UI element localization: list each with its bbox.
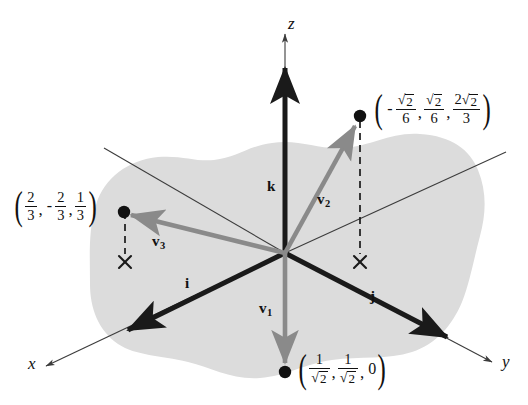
- fraction-x: 2 3: [25, 190, 36, 222]
- comma: ,: [360, 363, 364, 385]
- radical-icon: √2: [462, 93, 478, 108]
- vector-label-v3: v3: [152, 233, 165, 251]
- vector-label-v1: v1: [259, 300, 272, 318]
- comma: ,: [446, 103, 450, 125]
- basis-label-j: j: [370, 288, 375, 305]
- denominator: √2: [309, 369, 329, 386]
- basis-label-i: i: [185, 275, 189, 292]
- vector-label-v1-base: v: [259, 300, 267, 316]
- basis-label-k: k: [267, 178, 275, 195]
- numerator: 2: [55, 190, 66, 206]
- axis-label-y: y: [502, 352, 510, 372]
- axis-label-z: z: [288, 14, 295, 34]
- fraction-z: 1 3: [75, 190, 86, 222]
- vector-label-v2: v2: [317, 191, 330, 209]
- radicand: 2: [405, 94, 414, 108]
- numerator: √2: [424, 92, 444, 109]
- numerator: 1: [75, 190, 86, 206]
- denominator: 6: [400, 110, 411, 126]
- denominator: 3: [461, 110, 472, 126]
- radical-icon: √2: [340, 371, 356, 386]
- figure-canvas: z x y k i j v1 v2 v3 ( - √2 6 , √2 6: [0, 0, 528, 405]
- comma: ,: [418, 103, 422, 125]
- sign-minus: -: [47, 197, 52, 215]
- radicand: 2: [347, 371, 356, 385]
- fraction-y: 1 √2: [338, 352, 358, 385]
- endpoint-dot-v1: [279, 366, 291, 378]
- vector-label-v3-base: v: [152, 233, 160, 249]
- vector-label-v3-subscript: 3: [160, 240, 165, 251]
- numerator: 2: [25, 190, 36, 206]
- denominator: 3: [75, 207, 86, 223]
- numerator: 1: [314, 352, 325, 368]
- denominator: 3: [55, 207, 66, 223]
- vector-label-v1-subscript: 1: [267, 307, 272, 318]
- fraction-y: √2 6: [424, 92, 444, 125]
- denominator: √2: [338, 369, 358, 386]
- denominator: 3: [25, 207, 36, 223]
- endpoint-dot-v3: [118, 206, 130, 218]
- radical-sign: √: [462, 93, 470, 107]
- endpoint-dot-v2: [354, 110, 366, 122]
- fraction-y: 2 3: [55, 190, 66, 222]
- radical-sign: √: [311, 371, 319, 385]
- radical-icon: √2: [426, 93, 442, 108]
- radicand: 2: [319, 371, 328, 385]
- radical-sign: √: [340, 371, 348, 385]
- radical-icon: √2: [398, 93, 414, 108]
- vector-label-v2-subscript: 2: [325, 198, 330, 209]
- coefficient: 2: [455, 91, 462, 107]
- vector-label-v2-base: v: [317, 191, 325, 207]
- fraction-z: 2√2 3: [453, 92, 480, 125]
- radical-sign: √: [426, 93, 434, 107]
- axis-label-x: x: [28, 354, 36, 374]
- sign-minus: -: [387, 100, 392, 118]
- radicand: 2: [434, 94, 443, 108]
- comma: ,: [39, 200, 43, 222]
- numerator: 1: [342, 352, 353, 368]
- numerator: 2√2: [453, 92, 480, 109]
- numerator: √2: [396, 92, 416, 109]
- z-component-zero: 0: [368, 360, 376, 378]
- fraction-x: 1 √2: [309, 352, 329, 385]
- radicand: 2: [469, 94, 478, 108]
- radical-icon: √2: [311, 371, 327, 386]
- radical-sign: √: [398, 93, 406, 107]
- v3-coordinate-label: ( 2 3 , - 2 3 , 1 3 ): [12, 190, 99, 222]
- denominator: 6: [429, 110, 440, 126]
- comma: ,: [332, 363, 336, 385]
- v1-coordinate-label: ( 1 √2 , 1 √2 , 0 ): [296, 352, 389, 385]
- v2-coordinate-label: ( - √2 6 , √2 6 , 2√2 3 ): [372, 92, 493, 125]
- comma: ,: [68, 200, 72, 222]
- fraction-x: √2 6: [396, 92, 416, 125]
